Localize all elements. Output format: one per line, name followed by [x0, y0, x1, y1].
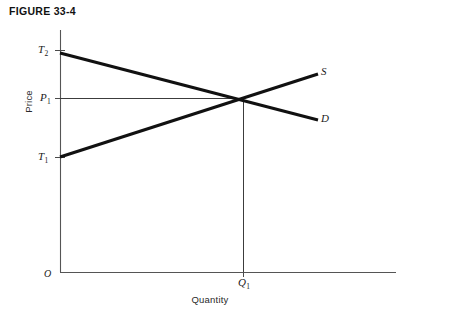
supply-demand-plot: [0, 0, 462, 316]
y-tick-label-p1-sub: 1: [47, 97, 51, 106]
y-tick-label-t1: T1: [38, 151, 48, 162]
y-tick-label-t1-sub: 1: [44, 156, 48, 165]
y-tick-label-p1-text: P: [40, 91, 47, 103]
origin-label: O: [44, 269, 51, 279]
x-axis-title: Quantity: [160, 294, 260, 305]
y-tick-label-t2-sub: 2: [44, 49, 48, 58]
y-tick-label-t2: T2: [38, 44, 48, 55]
x-tick-label-q1-sub: 1: [246, 282, 250, 291]
x-tick-label-q1-text: Q: [238, 276, 246, 288]
supply-curve-label: S: [321, 66, 327, 77]
demand-curve-label: D: [321, 113, 329, 124]
x-tick-label-q1: Q1: [238, 277, 250, 288]
y-axis-title: Price: [23, 72, 34, 132]
figure-container: FIGURE 33-4 T2 P1 T1 O Q1 S D Price Quan…: [0, 0, 462, 316]
y-tick-label-p1: P1: [40, 92, 50, 103]
